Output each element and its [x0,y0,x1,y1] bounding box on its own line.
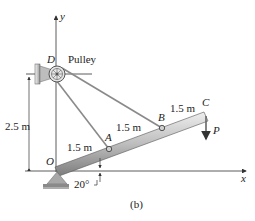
segment-AB-label: 1.5 m [116,121,142,133]
pulley-icon [49,66,65,82]
angle-label: 20° [74,178,89,190]
segment-BC-label: 1.5 m [170,102,196,114]
cable-DA [56,80,109,149]
y-axis-label: y [59,10,65,22]
x-axis-label: x [240,172,246,184]
segment-OA-label: 1.5 m [67,141,93,153]
statics-diagram: y x D Pulley 2.5 m O A B C 1.5 m 1.5 m 1… [0,0,255,221]
point-C-label: C [202,96,210,108]
pulley-wall-mount [35,64,40,84]
point-O-label: O [46,155,54,167]
point-B-label: B [158,111,165,123]
figure-caption: (b) [130,198,143,211]
pulley-label: Pulley [68,53,97,65]
point-A-label: A [104,131,112,143]
pin-A [106,146,111,151]
load-P-label: P [212,124,220,136]
pin-support-icon [43,172,69,188]
point-D-label: D [46,53,55,65]
cable-DB [62,68,162,128]
pin-B [159,125,164,130]
height-dimension-label: 2.5 m [5,120,31,132]
